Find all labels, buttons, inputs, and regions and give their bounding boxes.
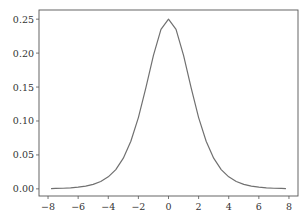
y-tick-label: 0.00 <box>13 183 34 194</box>
x-tick-label: 8 <box>286 201 292 212</box>
x-tick-label: −6 <box>71 201 85 212</box>
x-tick-label: 0 <box>165 201 171 212</box>
chart: −8−6−4−202468 0.000.050.100.150.200.25 <box>0 0 307 216</box>
x-tick-label: −8 <box>41 201 55 212</box>
y-tick-label: 0.20 <box>13 48 34 59</box>
y-tick-label: 0.25 <box>13 14 34 25</box>
y-tick-label: 0.10 <box>13 115 34 126</box>
x-tick-label: −4 <box>101 201 115 212</box>
x-tick-label: 2 <box>196 201 202 212</box>
x-axis-ticks: −8−6−4−202468 <box>41 196 292 212</box>
x-tick-label: −2 <box>131 201 145 212</box>
x-tick-label: 6 <box>256 201 262 212</box>
x-tick-label: 4 <box>226 201 232 212</box>
axes-frame <box>39 10 298 196</box>
series-line-logistic-pdf <box>51 19 286 188</box>
y-tick-label: 0.05 <box>13 149 34 160</box>
y-axis-ticks: 0.000.050.100.150.200.25 <box>13 14 39 195</box>
y-tick-label: 0.15 <box>13 82 34 93</box>
